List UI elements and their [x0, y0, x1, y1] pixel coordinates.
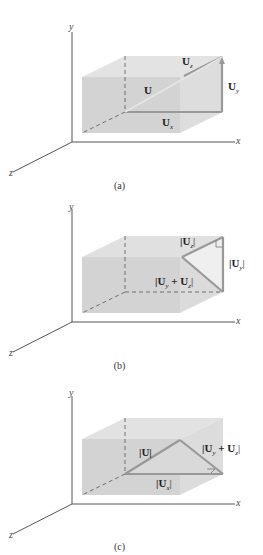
Uz-magnitude-label: |Uz| — [180, 236, 195, 250]
panel-a: y x z U Uz Uy Ux (a) — [0, 0, 263, 185]
Uy-magnitude-label: |Uy| — [229, 258, 245, 272]
panel-c: y x z |U| |Uy + Uz| |Ux| (c) — [0, 370, 263, 555]
z-axis-label: z — [9, 348, 13, 358]
box-diagram-c — [0, 370, 263, 555]
z-axis-label: z — [9, 530, 13, 540]
y-axis-label: y — [69, 388, 73, 398]
x-axis-label: x — [236, 316, 240, 326]
box-diagram-a — [0, 0, 263, 185]
y-axis-label: y — [69, 22, 73, 32]
Uy-plus-Uz-magnitude-label: |Uy + Uz| — [202, 443, 240, 457]
vector-Uy-label: Uy — [228, 81, 239, 95]
x-axis-label: x — [236, 498, 240, 508]
caption-c: (c) — [0, 541, 251, 552]
x-axis-label: x — [236, 136, 240, 146]
vector-U-label: U — [144, 85, 152, 96]
panel-b: y x z |Uz| |Uy| |Uy + Uz| (b) — [0, 185, 263, 370]
Ux-magnitude-label: |Ux| — [156, 478, 172, 492]
vector-Uz-label: Uz — [182, 56, 193, 70]
z-axis-label: z — [9, 168, 13, 178]
U-magnitude-label: |U| — [139, 447, 152, 458]
y-axis-label: y — [69, 202, 73, 212]
box-diagram-b — [0, 185, 263, 370]
Uy-plus-Uz-magnitude-label: |Uy + Uz| — [155, 276, 193, 290]
vector-Ux-label: Ux — [162, 117, 173, 131]
